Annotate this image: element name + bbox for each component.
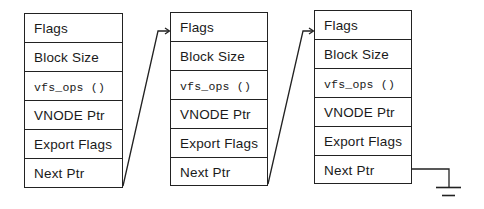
null-ground-icon xyxy=(412,169,461,196)
pointer-connectors xyxy=(0,0,484,209)
next-pointer-arrow-2 xyxy=(268,28,314,184)
next-pointer-arrow-1 xyxy=(123,28,170,186)
